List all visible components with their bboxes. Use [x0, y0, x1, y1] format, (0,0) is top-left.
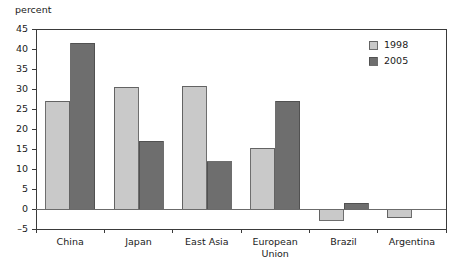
- x-tick-label: East Asia: [185, 236, 228, 247]
- legend-label: 2005: [384, 55, 408, 66]
- dark-gray-swatch: [369, 57, 377, 65]
- y-axis-title: percent: [15, 4, 52, 15]
- bar: [344, 203, 368, 209]
- chart-canvas: percent –5051015202530354045 ChinaJapanE…: [0, 0, 454, 271]
- y-tick-label: 15: [16, 143, 28, 154]
- bar: [71, 43, 95, 209]
- y-tick-label: 0: [22, 203, 28, 214]
- y-axis-title-group: percent: [15, 4, 52, 15]
- x-tick-label: Argentina: [389, 236, 435, 247]
- y-tick-label: 25: [16, 103, 28, 114]
- x-axis-tick-labels: ChinaJapanEast AsiaEuropeanUnionBrazilAr…: [57, 236, 435, 259]
- legend-label: 1998: [384, 39, 408, 50]
- x-tick-label: Japan: [124, 236, 152, 247]
- y-tick-label: 40: [16, 43, 28, 54]
- y-tick-label: 10: [16, 163, 28, 174]
- bar-chart: percent –5051015202530354045 ChinaJapanE…: [0, 0, 454, 271]
- bar: [251, 148, 275, 209]
- y-tick-label: 20: [16, 123, 28, 134]
- x-tick-label: Brazil: [330, 236, 357, 247]
- y-tick-label: 45: [16, 23, 28, 34]
- light-gray-swatch: [369, 41, 377, 49]
- chart-legend: 19982005: [369, 39, 408, 66]
- y-tick-label: 30: [16, 83, 28, 94]
- bar: [46, 101, 70, 209]
- y-tick-label: 5: [22, 183, 28, 194]
- bar: [387, 209, 411, 218]
- bar: [114, 87, 138, 209]
- y-axis-tick-marks: [32, 29, 36, 229]
- bar: [276, 101, 300, 209]
- bar: [207, 162, 231, 209]
- y-tick-label: 35: [16, 63, 28, 74]
- bar: [139, 141, 163, 209]
- bars-layer: [46, 43, 412, 220]
- x-tick-label: EuropeanUnion: [253, 236, 298, 259]
- y-tick-label: –5: [17, 223, 28, 234]
- x-axis-tick-marks: [36, 229, 446, 233]
- x-tick-label: China: [57, 236, 84, 247]
- y-axis-tick-labels: –5051015202530354045: [16, 23, 28, 234]
- bar: [319, 209, 343, 220]
- bar: [182, 86, 206, 209]
